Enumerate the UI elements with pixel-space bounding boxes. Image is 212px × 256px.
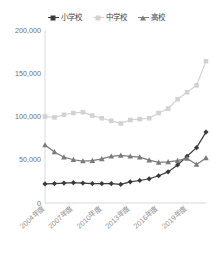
- data-point-marker: [90, 181, 95, 186]
- data-point-marker: [100, 116, 105, 121]
- data-point-marker: [204, 59, 209, 64]
- data-point-marker: [80, 181, 85, 186]
- triangle-marker-icon: [140, 16, 146, 21]
- data-point-marker: [118, 182, 123, 187]
- data-point-marker: [156, 111, 161, 116]
- data-point-marker: [156, 173, 161, 178]
- data-point-marker: [42, 142, 48, 147]
- axis-layer: [45, 30, 206, 203]
- series-layer: [42, 59, 209, 187]
- chart-title: [0, 0, 212, 8]
- data-point-marker: [81, 110, 86, 115]
- y-axis-tick-label: 100,000: [15, 112, 41, 121]
- data-point-marker: [194, 162, 200, 167]
- data-point-marker: [90, 113, 95, 118]
- legend-item-elementary[interactable]: 小学校: [48, 13, 82, 22]
- data-point-marker: [203, 155, 209, 160]
- data-point-marker: [62, 112, 67, 117]
- data-point-marker: [52, 115, 57, 120]
- legend-line-juniorhigh: [93, 17, 104, 18]
- plot-svg: 050,000100,000150,000200,000 2004年度2007年…: [0, 24, 212, 256]
- y-axis-tick-layer: 050,000100,000150,000200,000: [15, 26, 41, 208]
- square-marker-icon: [96, 16, 101, 21]
- legend-line-highschool: [138, 17, 149, 18]
- series-高校: [42, 142, 209, 167]
- x-axis-tick-label: 2016年度: [132, 204, 160, 231]
- data-point-marker: [185, 90, 190, 95]
- data-point-marker: [43, 114, 48, 119]
- legend-label-highschool: 高校: [151, 13, 165, 22]
- y-axis-tick-label: 150,000: [15, 69, 41, 78]
- data-point-marker: [147, 176, 152, 181]
- data-point-marker: [137, 117, 142, 122]
- x-axis-tick-label: 2010年度: [75, 204, 103, 231]
- data-point-marker: [71, 111, 76, 116]
- legend-item-highschool[interactable]: 高校: [138, 13, 165, 22]
- legend-item-juniorhigh[interactable]: 中学校: [93, 13, 127, 22]
- data-point-marker: [166, 106, 171, 111]
- data-point-marker: [194, 83, 199, 88]
- data-point-marker: [52, 181, 57, 186]
- data-point-marker: [42, 181, 47, 186]
- x-axis-tick-layer: 2004年度2007年度2010年度2013年度2016年度2019年度: [18, 204, 188, 231]
- x-axis-tick-label: 2019年度: [160, 204, 188, 231]
- x-axis-tick-label: 2007年度: [46, 204, 74, 231]
- data-point-marker: [175, 97, 180, 102]
- data-point-marker: [109, 119, 114, 124]
- x-axis-tick-label: 2004年度: [18, 204, 46, 231]
- legend-line-elementary: [48, 17, 59, 18]
- data-point-marker: [71, 180, 76, 185]
- data-point-marker: [61, 154, 67, 159]
- data-point-marker: [147, 116, 152, 121]
- data-point-marker: [203, 129, 208, 134]
- data-point-marker: [109, 181, 114, 186]
- y-axis-tick-label: 50,000: [19, 155, 41, 164]
- y-axis-tick-label: 200,000: [15, 26, 41, 35]
- data-point-marker: [118, 121, 123, 126]
- chart-legend: 小学校 中学校 高校: [0, 11, 212, 24]
- data-point-marker: [99, 181, 104, 186]
- legend-label-juniorhigh: 中学校: [106, 13, 127, 22]
- plot-area: 050,000100,000150,000200,000 2004年度2007年…: [0, 24, 212, 256]
- data-point-marker: [128, 179, 133, 184]
- chart-container: 小学校 中学校 高校 050,000100,000150,000200,000 …: [0, 0, 212, 256]
- series-中学校: [43, 59, 209, 126]
- x-axis-tick-label: 2013年度: [103, 204, 131, 231]
- data-point-marker: [128, 118, 133, 123]
- data-point-marker: [61, 181, 66, 186]
- legend-label-elementary: 小学校: [61, 13, 82, 22]
- data-point-marker: [137, 178, 142, 183]
- series-line: [45, 61, 206, 123]
- diamond-marker-icon: [51, 16, 56, 21]
